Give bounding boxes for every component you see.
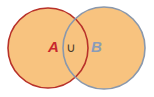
set-a-label: A	[47, 38, 59, 55]
venn-diagram: A ∪ B	[0, 0, 154, 97]
union-symbol: ∪	[66, 40, 76, 55]
set-b-label: B	[91, 38, 102, 55]
